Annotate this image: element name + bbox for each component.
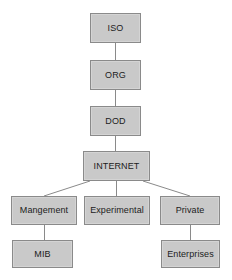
node-internet[interactable]: INTERNET xyxy=(83,151,150,181)
node-enterprises-label: Enterprises xyxy=(167,249,214,258)
node-private-label: Private xyxy=(176,206,205,215)
node-mib[interactable]: MIB xyxy=(12,240,73,268)
node-iso-label: ISO xyxy=(108,23,124,32)
node-mangement-label: Mangement xyxy=(20,206,68,215)
edge-internet-mangement xyxy=(44,181,90,196)
node-org[interactable]: ORG xyxy=(90,60,141,90)
node-experimental[interactable]: Experimental xyxy=(84,196,150,225)
node-mangement[interactable]: Mangement xyxy=(11,196,77,225)
node-dod[interactable]: DOD xyxy=(90,106,141,136)
node-experimental-label: Experimental xyxy=(90,206,144,215)
node-iso[interactable]: ISO xyxy=(90,13,141,43)
node-org-label: ORG xyxy=(105,70,126,79)
node-dod-label: DOD xyxy=(105,116,125,125)
node-mib-label: MIB xyxy=(34,249,50,258)
node-enterprises[interactable]: Enterprises xyxy=(161,240,220,268)
node-private[interactable]: Private xyxy=(160,196,220,225)
edge-internet-private xyxy=(143,181,190,196)
oid-tree-diagram: ISO ORG DOD INTERNET Mangement Experimen… xyxy=(0,0,232,280)
node-internet-label: INTERNET xyxy=(94,161,140,170)
